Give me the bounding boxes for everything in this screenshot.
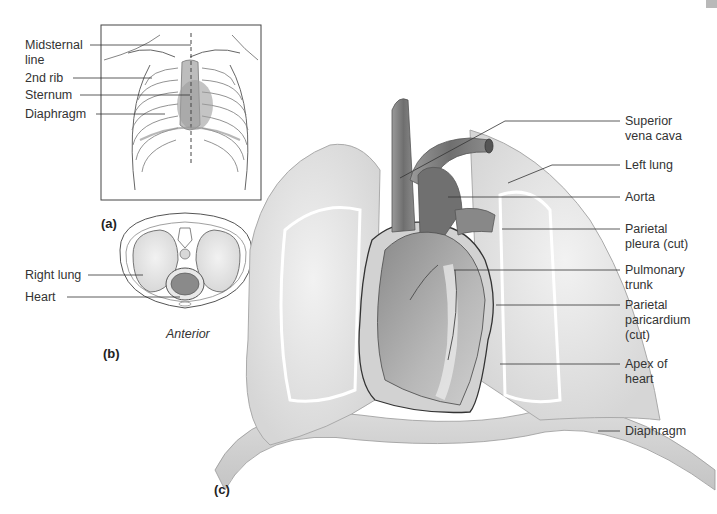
panel-letter-a: (a)	[101, 216, 117, 231]
label-diaphragm-c: Diaphragm	[625, 424, 686, 439]
panel-a-thorax	[101, 25, 261, 200]
label-left-lung: Left lung	[625, 158, 673, 173]
label-diaphragm-a: Diaphragm	[25, 107, 86, 122]
label-heart: Heart	[25, 290, 56, 305]
panel-b-cross-section	[120, 213, 252, 308]
label-superior-vena-cava: Superior vena cava	[625, 114, 682, 144]
orientation-label-anterior: Anterior	[166, 327, 210, 341]
label-sternum: Sternum	[25, 88, 72, 103]
panel-letter-b: (b)	[103, 346, 120, 361]
label-apex-of-heart: Apex of heart	[625, 357, 667, 387]
label-parietal-pericardium: Parietal paricardium (cut)	[625, 298, 690, 343]
panel-letter-c: (c)	[214, 482, 230, 497]
label-pulmonary-trunk: Pulmonary trunk	[625, 263, 685, 293]
label-aorta: Aorta	[625, 190, 655, 205]
page-corner-tab	[706, 0, 717, 8]
label-midsternal-line: Midsternal line	[25, 38, 83, 68]
anatomy-figure: Midsternal line 2nd rib Sternum Diaphrag…	[0, 0, 717, 514]
label-right-lung: Right lung	[25, 268, 81, 283]
label-2nd-rib: 2nd rib	[25, 71, 63, 86]
label-parietal-pleura: Parietal pleura (cut)	[625, 222, 688, 252]
illustration	[0, 0, 717, 514]
